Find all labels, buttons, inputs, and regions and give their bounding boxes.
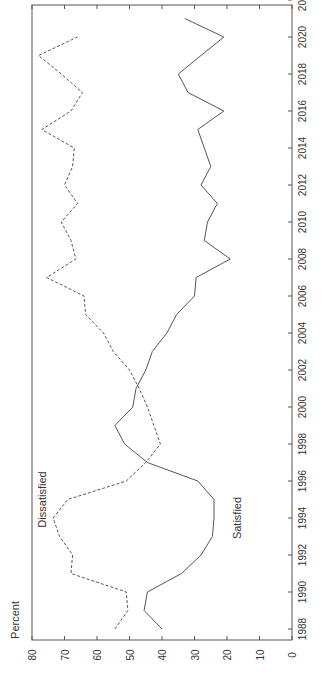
year-tick-label: 1994 <box>297 506 308 529</box>
year-axis: 1988199019921994199619982000200220042006… <box>288 0 308 640</box>
dissatisfied-line <box>39 37 161 629</box>
year-tick-label: 1992 <box>297 543 308 566</box>
percent-tick-label: 30 <box>190 649 201 661</box>
percent-tick-label: 10 <box>255 649 266 661</box>
plot-frame <box>32 5 292 640</box>
year-tick-label: 1998 <box>297 432 308 455</box>
year-tick-label: 2004 <box>297 321 308 344</box>
line-chart: 1988199019921994199619982000200220042006… <box>0 0 324 681</box>
year-tick-label: 1990 <box>297 580 308 603</box>
series-lines <box>39 19 231 630</box>
percent-tick-label: 70 <box>60 649 71 661</box>
year-tick-label: 2002 <box>297 358 308 381</box>
y-axis-label: Percent <box>9 601 21 639</box>
year-tick-label: 2006 <box>297 284 308 307</box>
inline-labels: DissatisfiedSatisfied <box>36 471 243 539</box>
dissatisfied-label: Dissatisfied <box>36 471 48 527</box>
percent-tick-label: 20 <box>222 649 233 661</box>
satisfied-label: Satisfied <box>231 497 243 539</box>
percent-tick-label: 80 <box>27 649 38 661</box>
year-tick-label: 2018 <box>297 62 308 85</box>
year-tick-label: 2016 <box>297 99 308 122</box>
percent-tick-label: 0 <box>287 652 298 658</box>
year-tick-label: 1988 <box>297 617 308 640</box>
year-tick-label: 2020 <box>297 25 308 48</box>
year-tick-label: 2010 <box>297 210 308 233</box>
year-tick-label: 2012 <box>297 173 308 196</box>
percent-tick-label: 60 <box>92 649 103 661</box>
year-tick-label: 1996 <box>297 469 308 492</box>
percent-tick-label: 40 <box>157 649 168 661</box>
percent-tick-label: 50 <box>125 649 136 661</box>
percent-axis: 01020304050607080 <box>27 5 298 661</box>
year-tick-label: 2014 <box>297 136 308 159</box>
satisfied-line <box>115 19 230 630</box>
year-tick-label: 2022 <box>297 0 308 11</box>
year-tick-label: 2008 <box>297 247 308 270</box>
plot-border <box>32 5 292 640</box>
year-tick-label: 2000 <box>297 395 308 418</box>
